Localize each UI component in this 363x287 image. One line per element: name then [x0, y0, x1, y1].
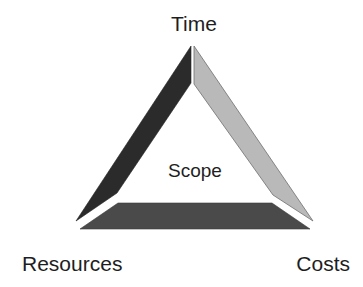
label-resources: Resources: [22, 252, 122, 275]
triangle-side-right: [194, 46, 313, 221]
triangle-side-left: [76, 46, 191, 221]
label-scope: Scope: [168, 160, 222, 181]
label-time: Time: [171, 12, 217, 35]
label-costs: Costs: [296, 252, 350, 275]
triangle-side-bottom: [80, 203, 310, 229]
triple-constraint-diagram: Time Scope Resources Costs: [0, 0, 363, 287]
